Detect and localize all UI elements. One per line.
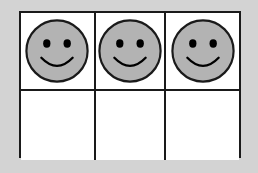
grid-cell-row2-col1[interactable] xyxy=(21,89,94,160)
worksheet-canvas xyxy=(0,0,258,173)
grid-cell-row1-col2[interactable] xyxy=(94,13,167,89)
smiley-face-icon xyxy=(23,17,91,85)
smiley-face-icon xyxy=(96,17,164,85)
grid-cell-row1-col3[interactable] xyxy=(166,13,239,89)
grid-cell-row2-col2[interactable] xyxy=(94,89,167,160)
empty-slot xyxy=(21,91,94,160)
counting-frame-grid xyxy=(19,11,241,158)
empty-slot xyxy=(96,91,165,160)
grid-cell-row1-col1[interactable] xyxy=(21,13,94,89)
empty-slot xyxy=(166,91,239,160)
smiley-face-icon xyxy=(169,17,237,85)
grid-cell-row2-col3[interactable] xyxy=(166,89,239,160)
